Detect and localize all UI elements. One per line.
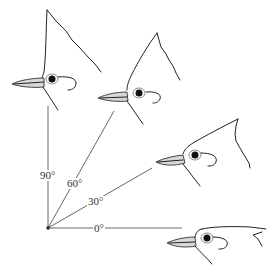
bird-head-0-icon [167, 227, 266, 264]
angle-label-60: 60° [66, 178, 83, 189]
bird-head-30-icon [156, 119, 250, 186]
angle-diagram [0, 0, 270, 277]
bird-head-60-icon [98, 33, 180, 124]
angle-label-0: 0° [93, 223, 105, 234]
angle-label-30: 30° [87, 196, 104, 207]
bird-head-90-icon [12, 10, 101, 110]
angle-label-90: 90° [39, 170, 56, 181]
line-60 [48, 111, 114, 228]
origin-point [47, 227, 50, 230]
